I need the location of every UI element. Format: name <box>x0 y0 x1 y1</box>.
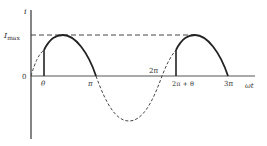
tick-two-pi-plus-theta: 2π + θ <box>172 80 194 88</box>
sine-dashed-negative <box>96 50 176 121</box>
conduction-pulse-1 <box>44 35 96 76</box>
imax-label: Imax <box>3 31 20 41</box>
tick-three-pi: 3π <box>224 80 233 88</box>
waveform-diagram: i Imax 0 θ π 2π 2π + θ 3π ωt <box>0 0 267 146</box>
tick-two-pi: 2π <box>149 67 158 75</box>
conduction-pulse-2 <box>176 35 228 76</box>
sine-dashed-start <box>31 50 44 76</box>
tick-theta: θ <box>41 80 46 88</box>
origin-label: 0 <box>22 73 26 81</box>
x-axis-label: ωt <box>245 82 254 90</box>
tick-pi: π <box>87 80 93 88</box>
y-axis-label: i <box>24 7 27 16</box>
